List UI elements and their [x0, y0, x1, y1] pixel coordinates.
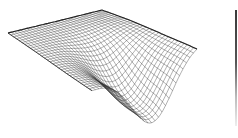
mesh-lines — [8, 10, 197, 123]
edge-bar — [235, 10, 237, 126]
surface-plot-figure — [0, 0, 238, 138]
wireframe-surface — [0, 0, 238, 138]
